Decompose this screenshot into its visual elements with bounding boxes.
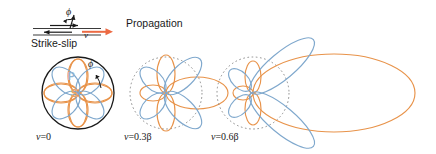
p-wave-lobes-v06 [224, 30, 321, 154]
caption-value-1: =0.3β [128, 131, 151, 142]
source-mechanism-diagram [33, 15, 113, 35]
panel-v06 [217, 30, 415, 154]
propagation-label: Propagation [126, 17, 183, 29]
panel-v0 [42, 57, 146, 129]
panel-caption-v03: v=0.3β [124, 131, 152, 142]
strike-slip-label: Strike-slip [31, 37, 77, 49]
panel-caption-v06: v=0.6β [211, 131, 239, 142]
phi-symbol-panel-label: ϕ [88, 58, 93, 69]
s-wave-lobes-v03 [140, 55, 228, 131]
phi-symbol-source-label: ϕ [66, 6, 71, 17]
slip-arrow-right [50, 23, 78, 27]
s-wave-legend-label: S [71, 88, 78, 99]
s-wave-lobes-v0 [44, 59, 146, 127]
velocity-symbol-label: v [84, 30, 88, 40]
p-wave-legend-label: P [68, 71, 75, 82]
panel-caption-v0: v=0 [36, 131, 51, 142]
slip-arrow-left [44, 30, 72, 34]
panel-v03 [130, 51, 228, 134]
p-wave-lobes-v0 [47, 62, 109, 124]
caption-value-2: =0.6β [215, 131, 238, 142]
caption-value-0: =0 [40, 131, 51, 142]
radiation-pattern-figure: ϕ Propagation v Strike-slip ϕ P S v=0 v=… [0, 0, 436, 154]
